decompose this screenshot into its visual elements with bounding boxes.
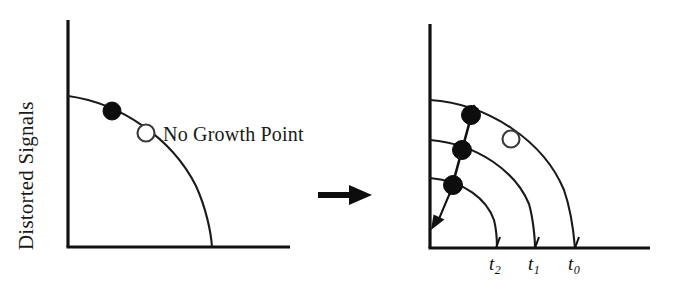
tick-label-t2-symbol: t	[489, 253, 494, 274]
tick-label-t2-subscript: 2	[495, 263, 501, 277]
tick-label-t0: t0	[568, 253, 579, 275]
right-point-on-t0-curve	[462, 106, 481, 125]
left-frontier-curve	[68, 96, 212, 247]
tick-mark-t0	[575, 237, 579, 248]
right-t0-curve	[430, 100, 575, 248]
right-panel-group	[429, 24, 651, 248]
tick-label-t1-symbol: t	[528, 253, 533, 274]
right-no-growth-point	[503, 131, 520, 148]
tick-label-t1-subscript: 1	[534, 263, 540, 277]
tick-label-t1: t1	[528, 253, 539, 275]
rightward-transition-arrow-head	[349, 185, 372, 205]
figure-container: Distorted Signals No Growth Point t2 t1 …	[0, 0, 681, 286]
tick-label-t0-subscript: 0	[574, 263, 580, 277]
transition-arrow-group	[318, 185, 372, 205]
no-growth-point-label: No Growth Point	[163, 123, 304, 146]
inward-shift-arrow-head	[431, 215, 445, 231]
tick-label-t2: t2	[489, 253, 500, 275]
left-y-axis-label: Distorted Signals	[14, 101, 39, 250]
right-t1-curve	[430, 140, 535, 248]
right-t2-curve	[430, 178, 497, 248]
left-distorted-signal-point	[103, 102, 121, 120]
tick-label-t0-symbol: t	[568, 253, 573, 274]
diagram-canvas	[0, 0, 681, 286]
left-no-growth-point	[138, 125, 155, 142]
right-point-on-t1-curve	[453, 141, 472, 160]
right-point-on-t2-curve	[444, 176, 463, 195]
